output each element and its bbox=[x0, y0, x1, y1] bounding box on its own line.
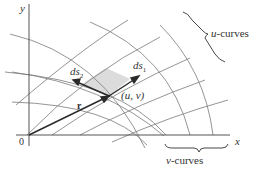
origin-label: 0 bbox=[19, 137, 24, 147]
ds2-label-sub: 2 bbox=[80, 72, 84, 80]
point-uv-marker bbox=[108, 95, 110, 97]
u-curves-label: u-curves bbox=[211, 28, 249, 39]
u-curves-text: -curves bbox=[217, 27, 249, 39]
diagram-canvas bbox=[0, 0, 257, 169]
v-curves-brace-icon bbox=[165, 144, 228, 152]
ds1-label-main: ds bbox=[133, 59, 143, 71]
ds1-label-sub: 1 bbox=[143, 66, 147, 74]
ds2-label-main: ds bbox=[70, 65, 80, 77]
v-curves-text: -curves bbox=[171, 154, 203, 166]
y-axis-label: y bbox=[20, 3, 25, 14]
r-vector bbox=[29, 96, 109, 135]
x-axis-label: x bbox=[235, 136, 240, 147]
ds2-label: ds2 bbox=[70, 66, 83, 80]
v-curves-label: v-curves bbox=[166, 155, 203, 166]
ds1-arrowhead-icon bbox=[131, 76, 139, 83]
ds1-label: ds1 bbox=[133, 60, 146, 74]
point-uv-label: (u, v) bbox=[121, 90, 144, 101]
r-arrowhead-icon bbox=[101, 96, 109, 102]
curvilinear-coordinates-diagram: y x 0 r ds1 ds2 (u, v) u-curves v-curves bbox=[0, 0, 257, 169]
r-vector-label: r bbox=[77, 101, 81, 111]
